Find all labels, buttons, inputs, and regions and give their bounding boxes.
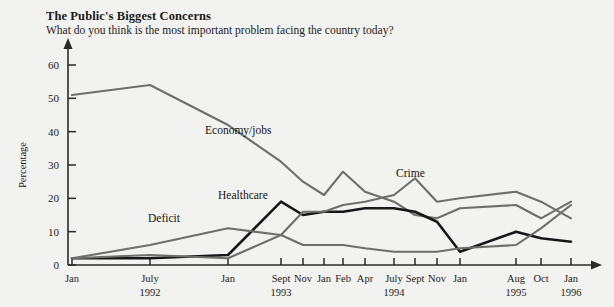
y-axis-arrow	[64, 38, 73, 49]
series-label-crime: Crime	[396, 167, 425, 179]
x-tick-label: Feb	[335, 273, 351, 284]
y-tick-label: 20	[48, 192, 60, 204]
series-line-healthcare	[72, 202, 571, 259]
series-label-deficit: Deficit	[148, 212, 181, 224]
y-tick-label: 60	[48, 59, 60, 71]
x-tick-label: Jan	[564, 273, 579, 284]
line-chart-plot: 0102030405060PercentageJanJulyJanSeptNov…	[0, 0, 614, 307]
series-line-economy-jobs	[72, 85, 571, 218]
x-tick-label: Jan	[65, 273, 80, 284]
x-year-label: 1994	[384, 287, 406, 298]
x-tick-label: Nov	[428, 273, 447, 284]
y-axis-title: Percentage	[17, 142, 28, 188]
y-tick-label: 50	[48, 92, 60, 104]
chart-container: The Public's Biggest Concerns What do yo…	[0, 0, 614, 307]
y-tick-label: 0	[54, 259, 60, 271]
x-axis-arrow	[591, 261, 602, 270]
x-tick-label: Apr	[357, 273, 374, 284]
y-tick-label: 30	[48, 159, 60, 171]
x-tick-label: Oct	[533, 273, 548, 284]
x-tick-label: Jan	[221, 273, 236, 284]
y-tick-label: 40	[48, 126, 60, 138]
x-year-label: 1992	[140, 287, 161, 298]
x-tick-label: Aug	[507, 273, 526, 284]
x-tick-label: Sept	[406, 273, 425, 284]
x-year-label: 1996	[561, 287, 582, 298]
y-tick-label: 10	[48, 226, 60, 238]
x-tick-label: Nov	[294, 273, 313, 284]
x-tick-label: Jan	[453, 273, 468, 284]
x-tick-label: Jan	[317, 273, 332, 284]
series-label-healthcare: Healthcare	[218, 189, 268, 201]
x-year-label: 1995	[506, 287, 527, 298]
x-year-label: 1993	[271, 287, 292, 298]
series-label-economy-jobs: Economy/jobs	[205, 124, 272, 137]
x-tick-label: July	[141, 273, 159, 284]
x-tick-label: Sept	[272, 273, 291, 284]
x-tick-label: July	[385, 273, 403, 284]
